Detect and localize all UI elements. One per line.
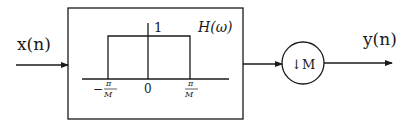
svg-text:−: − bbox=[93, 82, 103, 96]
input-signal-label: x(n) bbox=[17, 34, 51, 54]
downsampler-block: ↓ M bbox=[282, 42, 324, 84]
svg-text:M: M bbox=[103, 90, 113, 99]
downsample-arrow-icon: ↓ bbox=[291, 57, 302, 72]
svg-text:M: M bbox=[184, 90, 194, 99]
downsample-factor: M bbox=[302, 57, 315, 72]
tick-label-neg-pi-over-m: − π M bbox=[93, 79, 117, 99]
tick-label-zero: 0 bbox=[144, 82, 152, 96]
frequency-response-plot: 1 H(ω) − π M 0 π M bbox=[82, 19, 233, 99]
svg-text:π: π bbox=[105, 79, 112, 88]
svg-text:π: π bbox=[187, 79, 194, 88]
filter-block: 1 H(ω) − π M 0 π M bbox=[68, 8, 243, 119]
tick-label-pi-over-m: π M bbox=[184, 79, 198, 99]
block-diagram: x(n) 1 H(ω) − π M 0 π M bbox=[0, 0, 412, 126]
passband-rectangle bbox=[108, 36, 190, 79]
filter-title: H(ω) bbox=[197, 19, 233, 35]
peak-label: 1 bbox=[154, 20, 162, 35]
output-signal-label: y(n) bbox=[362, 29, 397, 49]
